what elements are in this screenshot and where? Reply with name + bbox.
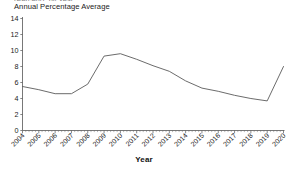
x-axis-ticks: 2004200520062007200820092010201120122013… — [10, 131, 287, 148]
y-tick-label: 2 — [15, 110, 19, 119]
y-tick-label: 8 — [15, 62, 19, 71]
y-axis-ticks: 02468101214 — [11, 14, 23, 135]
x-tick-label: 2008 — [75, 132, 91, 148]
x-tick-label: 2014 — [173, 132, 189, 148]
x-tick-label: 2013 — [157, 132, 173, 148]
chart-figure: (Percent), by Year Annual Percentage Ave… — [0, 0, 288, 169]
x-tick-label: 2007 — [59, 132, 75, 148]
y-tick-label: 10 — [11, 46, 19, 55]
y-tick-label: 14 — [11, 14, 19, 23]
x-tick-label: 2018 — [238, 132, 254, 148]
line-chart-plot: 02468101214 2004200520062007200820092010… — [0, 0, 288, 155]
y-axis-label: Annual Percentage Average — [14, 2, 110, 11]
y-tick-label: 6 — [15, 78, 19, 87]
x-tick-label: 2020 — [271, 132, 287, 148]
x-tick-label: 2010 — [108, 132, 124, 148]
y-tick-label: 4 — [15, 94, 19, 103]
x-tick-label: 2006 — [42, 132, 58, 148]
x-tick-label: 2019 — [254, 132, 270, 148]
x-tick-label: 2016 — [205, 132, 221, 148]
clipped-header-text: (Percent), by Year — [14, 0, 73, 1]
x-tick-label: 2009 — [91, 132, 107, 148]
x-tick-label: 2017 — [222, 132, 238, 148]
x-tick-label: 2011 — [124, 132, 140, 148]
x-tick-label: 2005 — [26, 132, 42, 148]
x-tick-label: 2004 — [10, 132, 26, 148]
y-tick-label: 12 — [11, 30, 19, 39]
x-tick-label: 2015 — [189, 132, 205, 148]
x-axis-label: Year — [0, 155, 288, 164]
x-tick-label: 2012 — [140, 132, 156, 148]
data-series-line — [23, 54, 284, 101]
